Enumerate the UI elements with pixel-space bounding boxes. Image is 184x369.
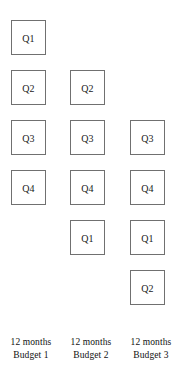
quarter-box: Q3 [130,120,165,155]
column-label-line-1: 12 months [1,336,61,349]
column-label-line-2: Budget 1 [1,349,61,362]
quarter-box: Q4 [130,170,165,205]
budget-column-1: Q1 Q2 Q3 Q4 [11,0,71,369]
quarter-box: Q3 [11,120,46,155]
quarter-box: Q1 [11,20,46,55]
quarter-box: Q2 [70,70,105,105]
column-label-line-1: 12 months [61,336,121,349]
quarter-box: Q1 [70,220,105,255]
quarter-box: Q4 [11,170,46,205]
budget-timeline-diagram: Q1 Q2 Q3 Q4 Q2 Q3 Q4 Q1 Q3 Q4 Q1 Q2 12 m… [0,0,184,369]
quarter-box: Q1 [130,220,165,255]
quarter-box: Q3 [70,120,105,155]
column-label-line-2: Budget 2 [61,349,121,362]
quarter-box: Q2 [130,270,165,305]
column-label-line-2: Budget 3 [121,349,181,362]
column-label-line-1: 12 months [121,336,181,349]
column-label-budget-1: 12 months Budget 1 [1,336,61,361]
quarter-box: Q2 [11,70,46,105]
column-label-budget-3: 12 months Budget 3 [121,336,181,361]
budget-column-3: Q3 Q4 Q1 Q2 [130,0,184,369]
quarter-box: Q4 [70,170,105,205]
column-label-budget-2: 12 months Budget 2 [61,336,121,361]
budget-column-2: Q2 Q3 Q4 Q1 [70,0,130,369]
